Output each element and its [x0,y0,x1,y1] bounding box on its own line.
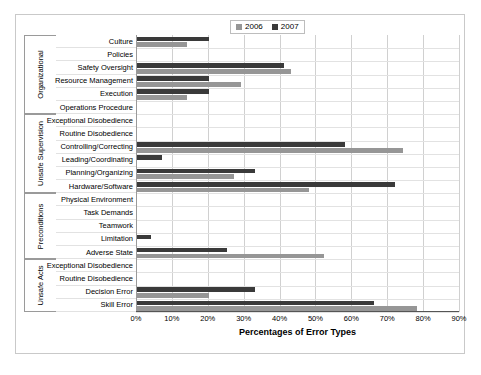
row-separator [136,127,459,128]
group-label-text: Unsafe Supervision [36,121,45,186]
x-tick-label: 0% [131,314,142,323]
category-label: Adverse State [56,246,136,259]
category-label: Hardware/Software [56,180,136,193]
gridline-70 [387,35,388,312]
bar-2007 [137,182,395,187]
bar-2007 [137,89,209,94]
category-label: Decision Error [56,286,136,299]
bar-2007 [137,287,255,292]
gridline-40 [280,35,281,312]
bar-2007 [137,301,374,306]
gridline-30 [244,35,245,312]
x-tick-label: 90% [451,314,466,323]
x-tick-label: 70% [380,314,395,323]
row-separator [136,193,459,194]
group-label-text: Organizational [36,50,45,98]
category-label: Task Demands [56,206,136,219]
group-label-text: Preconditions [36,204,45,249]
bar-2006 [137,69,291,74]
bar-2006 [137,188,309,193]
legend-entry-2006: 2006 [236,22,263,31]
row-separator [136,48,459,49]
category-label: Planning/Organizing [56,167,136,180]
plot-left-border [136,35,137,312]
legend-entry-2007: 2007 [272,22,299,31]
bar-2006 [137,95,187,100]
category-label: Routine Disobedience [56,127,136,140]
gridline-80 [423,35,424,312]
category-label: Operations Procedure [56,101,136,114]
category-label: Execution [56,88,136,101]
group-label-unsafe-supervision: Unsafe Supervision [24,114,56,193]
row-separator [136,272,459,273]
bar-2007 [137,169,255,174]
legend-swatch-icon [272,24,278,30]
group-label-organizational: Organizational [24,35,56,114]
category-label: Controlling/Correcting [56,141,136,154]
row-separator [136,220,459,221]
bar-2007 [137,235,151,240]
category-label: Limitation [56,233,136,246]
bar-2007 [137,37,209,42]
bar-2006 [137,254,324,259]
row-separator [136,101,459,102]
category-label: Routine Disobedience [56,272,136,285]
row-separator [136,114,459,115]
plot-bottom-axis [136,311,459,312]
row-separator [136,206,459,207]
x-tick-label: 50% [308,314,323,323]
plot-area [136,35,459,312]
bar-2007 [137,63,284,68]
x-tick-label: 30% [236,314,251,323]
x-tick-label: 40% [272,314,287,323]
gridline-60 [351,35,352,312]
category-label: Policies [56,48,136,61]
gridline-90 [459,35,460,312]
row-separator [136,312,459,313]
bar-2006 [137,42,187,47]
group-label-text: Unsafe Acts [36,266,45,306]
x-tick-label: 80% [416,314,431,323]
group-label-preconditions: Preconditions [24,193,56,259]
category-label: Exceptional Disobedience [56,259,136,272]
legend-label: 2007 [281,22,299,31]
category-label: Physical Environment [56,193,136,206]
plot-inner [136,35,459,312]
row-separator [136,154,459,155]
bar-2007 [137,155,162,160]
bar-2006 [137,82,241,87]
row-separator [136,233,459,234]
legend-swatch-icon [236,24,242,30]
category-label: Skill Error [56,299,136,312]
x-tick-label: 60% [344,314,359,323]
x-axis-title: Percentages of Error Types [136,327,459,337]
x-tick-label: 20% [200,314,215,323]
category-label: Exceptional Disobedience [56,114,136,127]
bar-2006 [137,293,209,298]
category-label: Culture [56,35,136,48]
bar-2006 [137,148,403,153]
row-separator [136,259,459,260]
category-label: Leading/Coordinating [56,154,136,167]
bar-2007 [137,142,345,147]
bar-2007 [137,76,209,81]
x-tick-label: 10% [164,314,179,323]
x-axis-ticks: 0%10%20%30%40%50%60%70%80%90% [136,314,459,326]
chart-frame: 20062007 OrganizationalUnsafe Supervisio… [15,14,465,354]
legend-label: 2006 [245,22,263,31]
category-label: Resource Management [56,75,136,88]
bar-2006 [137,174,234,179]
category-label: Teamwork [56,220,136,233]
gridline-50 [315,35,316,312]
category-label: Safety Oversight [56,61,136,74]
category-label-column: CulturePoliciesSafety OversightResource … [56,35,136,312]
group-label-column: OrganizationalUnsafe SupervisionPrecondi… [24,35,56,312]
bar-2007 [137,248,227,253]
chart-legend: 20062007 [230,20,305,34]
